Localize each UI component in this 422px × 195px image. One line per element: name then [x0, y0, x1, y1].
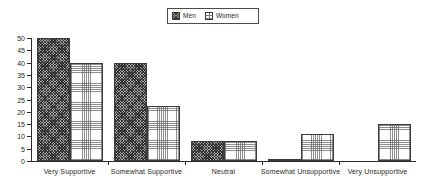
y-tick-label-10: 10: [17, 133, 25, 140]
y-tick-label-25: 25: [17, 96, 25, 103]
y-tick-45: [27, 50, 31, 51]
y-tick-label-50: 50: [17, 35, 25, 42]
y-tick-label-45: 45: [17, 47, 25, 54]
category-label-0: Very Supportive: [44, 168, 96, 175]
y-tick-15: [27, 124, 31, 125]
y-tick-40: [27, 63, 31, 64]
bar-women-4: [378, 124, 411, 161]
y-tick-10: [27, 136, 31, 137]
y-tick-50: [27, 38, 31, 39]
x-tick-2: [262, 161, 263, 165]
y-tick-25: [27, 100, 31, 101]
bar-men-3: [268, 159, 301, 161]
y-tick-35: [27, 75, 31, 76]
bar-women-3: [301, 134, 334, 161]
y-tick-30: [27, 87, 31, 88]
y-tick-0: [27, 161, 31, 162]
legend-item-men: Men: [172, 12, 196, 20]
category-label-1: Somewhat Supportive: [111, 168, 182, 175]
legend-label-women: Women: [216, 13, 239, 20]
legend-swatch-women-icon: [205, 12, 213, 20]
bar-chart: Men Women 05101520253035404550 Very Supp…: [0, 0, 422, 195]
y-tick-label-5: 5: [21, 145, 25, 152]
y-tick-5: [27, 149, 31, 150]
bar-men-1: [114, 63, 147, 161]
x-axis-line: [31, 161, 416, 162]
x-tick-3: [339, 161, 340, 165]
y-tick-20: [27, 112, 31, 113]
bar-women-0: [70, 63, 103, 161]
plot-area: 05101520253035404550: [31, 38, 416, 162]
y-tick-label-15: 15: [17, 121, 25, 128]
y-tick-label-40: 40: [17, 59, 25, 66]
y-tick-label-20: 20: [17, 108, 25, 115]
y-tick-label-30: 30: [17, 84, 25, 91]
category-label-4: Very Unsupportive: [348, 168, 408, 175]
bar-men-2: [191, 141, 224, 161]
category-label-3: Somewhat Unsupportive: [261, 168, 340, 175]
bar-women-2: [224, 141, 257, 161]
legend-item-women: Women: [205, 12, 239, 20]
x-tick-1: [185, 161, 186, 165]
chart-legend: Men Women: [167, 8, 259, 24]
x-tick-0: [108, 161, 109, 165]
y-axis-line: [31, 38, 32, 162]
category-label-2: Neutral: [212, 168, 236, 175]
y-tick-label-35: 35: [17, 71, 25, 78]
legend-label-men: Men: [183, 13, 196, 20]
bar-men-0: [37, 38, 70, 161]
legend-swatch-men-icon: [172, 12, 180, 20]
bar-women-1: [147, 106, 180, 161]
y-tick-label-0: 0: [21, 158, 25, 165]
